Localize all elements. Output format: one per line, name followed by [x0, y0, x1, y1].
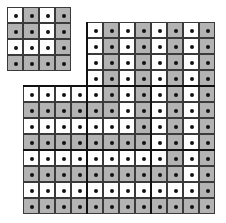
- dot-icon: [174, 157, 178, 161]
- dot-icon: [94, 141, 98, 145]
- white-cell: [135, 182, 151, 198]
- dot-icon: [94, 93, 98, 97]
- gray-cell: [135, 166, 151, 182]
- dot-icon: [174, 77, 178, 81]
- dot-icon: [174, 125, 178, 129]
- gray-cell: [55, 166, 71, 182]
- gray-cell: [39, 198, 55, 214]
- dot-icon: [30, 93, 34, 97]
- gray-cell: [103, 54, 119, 70]
- white-cell: [87, 150, 103, 166]
- dot-icon: [190, 29, 194, 33]
- dot-icon: [94, 77, 98, 81]
- dot-icon: [14, 30, 18, 34]
- white-cell: [119, 182, 135, 198]
- white-cell: [87, 118, 103, 134]
- white-cell: [71, 182, 87, 198]
- dot-icon: [94, 205, 98, 209]
- white-cell: [151, 38, 167, 54]
- white-cell: [167, 182, 183, 198]
- white-cell: [71, 118, 87, 134]
- white-cell: [103, 182, 119, 198]
- gray-cell: [23, 102, 39, 118]
- dot-icon: [206, 77, 210, 81]
- gray-cell: [87, 102, 103, 118]
- dot-icon: [174, 109, 178, 113]
- gray-cell: [7, 55, 23, 71]
- white-cell: [55, 150, 71, 166]
- dot-icon: [126, 173, 130, 177]
- dot-icon: [142, 205, 146, 209]
- dot-icon: [126, 45, 130, 49]
- dot-icon: [30, 205, 34, 209]
- dot-icon: [94, 125, 98, 129]
- gray-cell: [135, 118, 151, 134]
- gray-cell: [71, 166, 87, 182]
- white-cell: [183, 38, 199, 54]
- white-cell: [183, 182, 199, 198]
- gray-cell: [199, 102, 215, 118]
- white-cell: [23, 86, 39, 102]
- gray-cell: [23, 198, 39, 214]
- dot-icon: [94, 29, 98, 33]
- white-cell: [39, 7, 55, 23]
- gray-cell: [119, 134, 135, 150]
- dot-icon: [30, 14, 34, 18]
- white-cell: [71, 86, 87, 102]
- dot-icon: [110, 205, 114, 209]
- white-cell: [183, 166, 199, 182]
- dot-icon: [190, 157, 194, 161]
- dot-icon: [110, 61, 114, 65]
- gray-cell: [199, 70, 215, 86]
- gray-cell: [23, 166, 39, 182]
- dot-icon: [158, 189, 162, 193]
- dot-icon: [30, 173, 34, 177]
- gray-cell: [199, 198, 215, 214]
- gray-cell: [199, 86, 215, 102]
- gray-cell: [167, 150, 183, 166]
- white-cell: [151, 70, 167, 86]
- white-cell: [151, 134, 167, 150]
- white-cell: [183, 118, 199, 134]
- dot-icon: [206, 61, 210, 65]
- dot-icon: [190, 109, 194, 113]
- dot-icon: [174, 189, 178, 193]
- dot-icon: [190, 205, 194, 209]
- white-cell: [55, 118, 71, 134]
- dot-icon: [174, 45, 178, 49]
- dot-icon: [158, 45, 162, 49]
- dot-icon: [110, 157, 114, 161]
- dot-icon: [190, 141, 194, 145]
- white-cell: [151, 54, 167, 70]
- gray-cell: [167, 70, 183, 86]
- dot-icon: [30, 157, 34, 161]
- dot-icon: [110, 77, 114, 81]
- gray-cell: [135, 54, 151, 70]
- white-cell: [7, 7, 23, 23]
- dot-icon: [126, 61, 130, 65]
- white-cell: [119, 118, 135, 134]
- dot-icon: [110, 141, 114, 145]
- dot-icon: [206, 157, 210, 161]
- dot-icon: [126, 141, 130, 145]
- dot-icon: [190, 77, 194, 81]
- dot-icon: [126, 189, 130, 193]
- dot-icon: [94, 109, 98, 113]
- dot-icon: [142, 93, 146, 97]
- white-cell: [151, 150, 167, 166]
- dot-icon: [206, 205, 210, 209]
- dot-icon: [30, 125, 34, 129]
- white-cell: [183, 86, 199, 102]
- dot-icon: [206, 93, 210, 97]
- gray-cell: [135, 198, 151, 214]
- gray-cell: [199, 150, 215, 166]
- white-cell: [119, 38, 135, 54]
- dot-icon: [94, 45, 98, 49]
- dot-icon: [110, 173, 114, 177]
- dot-icon: [206, 141, 210, 145]
- dot-icon: [126, 157, 130, 161]
- white-cell: [151, 118, 167, 134]
- gray-cell: [183, 198, 199, 214]
- gray-cell: [103, 86, 119, 102]
- dot-icon: [126, 109, 130, 113]
